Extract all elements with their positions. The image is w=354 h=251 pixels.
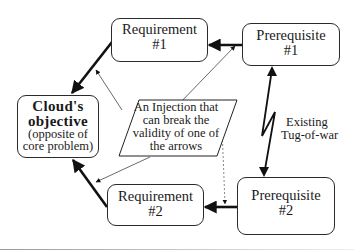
prerequisite-2-label: Prerequisite [238,188,334,203]
tug-of-war-arrow [262,69,275,175]
injection-text: An Injection that can break the validity… [126,101,226,153]
injection-line-to-req1-arrow [96,70,122,110]
tug-of-war-head-top [267,66,277,76]
objective-subtitle-2: core problem) [18,141,98,153]
injection-line-4: the arrows [126,140,226,153]
prerequisite-2-box: Prerequisite #2 [237,177,335,235]
bottom-divider [0,249,354,250]
requirement-2-label: Requirement [108,189,203,204]
tug-of-war-label: Existing Tug-of-war [281,116,338,142]
injection-line-to-req2-arrow [96,157,150,182]
prerequisite-1-label: Prerequisite [243,28,339,43]
requirement-2-box: Requirement #2 [107,184,204,226]
tug-of-war-head-bottom [259,167,269,177]
prerequisite-1-box: Prerequisite #1 [242,23,340,66]
tug-of-war-line-2: Tug-of-war [281,129,338,142]
prerequisite-2-number: #2 [238,203,334,218]
objective-title: Cloud's [18,99,98,114]
requirement-1-box: Requirement #1 [111,18,208,62]
prerequisite-1-number: #1 [243,43,339,58]
arrow-req2-to-objective [73,160,107,207]
requirement-1-label: Requirement [112,22,207,37]
cloud-objective-box: Cloud's objective (opposite of core prob… [17,95,99,158]
requirement-2-number: #2 [108,204,203,219]
requirement-1-number: #1 [112,37,207,52]
